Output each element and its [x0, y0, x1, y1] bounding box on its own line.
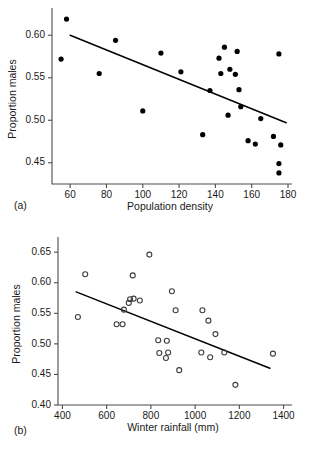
data-point	[140, 108, 145, 113]
data-point	[97, 71, 102, 76]
data-point	[276, 170, 281, 175]
data-point	[58, 56, 63, 61]
data-point	[235, 49, 240, 54]
scatter-plot-b: 0.400.450.500.550.600.654006008001000120…	[0, 225, 309, 451]
x-tick-label: 100	[134, 189, 151, 200]
panel-b: 0.400.450.500.550.600.654006008001000120…	[0, 225, 309, 451]
y-tick-label: 0.60	[26, 29, 46, 40]
data-point	[200, 308, 205, 313]
y-tick-label: 0.50	[32, 338, 52, 349]
y-tick-label: 0.50	[26, 114, 46, 125]
data-point	[200, 132, 205, 137]
y-tick-label: 0.45	[32, 368, 52, 379]
data-point	[156, 338, 161, 343]
panel-a: 0.450.500.550.606080100120140160180Popul…	[0, 0, 309, 225]
x-tick-label: 180	[280, 189, 297, 200]
x-tick-label: 1000	[184, 410, 207, 421]
data-point	[238, 104, 243, 109]
data-point	[157, 351, 162, 356]
data-point	[227, 67, 232, 72]
data-point	[213, 332, 218, 337]
y-tick-label: 0.65	[32, 246, 52, 257]
axis-spine	[58, 237, 292, 405]
data-point	[178, 69, 183, 74]
x-tick-label: 80	[101, 189, 113, 200]
data-point	[75, 314, 80, 319]
data-point	[276, 161, 281, 166]
data-point	[216, 56, 221, 61]
data-point	[225, 113, 230, 118]
x-tick-label: 60	[65, 189, 77, 200]
data-point	[113, 38, 118, 43]
x-tick-label: 1200	[228, 410, 251, 421]
data-point	[253, 141, 258, 146]
x-axis-title: Winter rainfall (mm)	[127, 421, 219, 433]
data-point	[114, 322, 119, 327]
data-point	[131, 296, 136, 301]
data-point	[166, 350, 171, 355]
x-tick-label: 140	[207, 189, 224, 200]
data-point	[158, 51, 163, 56]
data-point	[173, 308, 178, 313]
figure-container: 0.450.500.550.606080100120140160180Popul…	[0, 0, 309, 451]
data-point	[222, 45, 227, 50]
data-point	[233, 72, 238, 77]
y-tick-label: 0.55	[32, 307, 52, 318]
regression-line	[70, 35, 286, 123]
y-tick-label: 0.45	[26, 156, 46, 167]
data-point	[164, 338, 169, 343]
data-point	[271, 134, 276, 139]
data-point	[218, 71, 223, 76]
y-tick-label: 0.40	[32, 399, 52, 410]
data-point	[199, 350, 204, 355]
data-point	[236, 87, 241, 92]
data-point	[258, 116, 263, 121]
y-tick-label: 0.55	[26, 71, 46, 82]
y-tick-label: 0.60	[32, 276, 52, 287]
data-point	[245, 138, 250, 143]
data-point	[169, 289, 174, 294]
data-point	[270, 351, 275, 356]
axis-spine	[52, 8, 292, 184]
x-tick-label: 160	[243, 189, 260, 200]
x-tick-label: 120	[171, 189, 188, 200]
data-point	[276, 51, 281, 56]
data-point	[130, 273, 135, 278]
data-point	[137, 298, 142, 303]
panel-label-b: (b)	[14, 424, 27, 436]
x-tick-label: 600	[98, 410, 115, 421]
data-point	[163, 355, 168, 360]
data-point	[177, 368, 182, 373]
panel-label-a: (a)	[14, 199, 27, 211]
data-point	[208, 355, 213, 360]
regression-line	[76, 292, 270, 368]
scatter-plot-a: 0.450.500.550.606080100120140160180Popul…	[0, 0, 309, 225]
x-tick-label: 800	[143, 410, 160, 421]
x-axis-title: Population density	[127, 200, 214, 212]
data-point	[233, 382, 238, 387]
data-point	[207, 88, 212, 93]
data-point	[278, 142, 283, 147]
data-point	[147, 252, 152, 257]
x-tick-label: 400	[54, 410, 71, 421]
data-point	[83, 272, 88, 277]
y-axis-title: Proportion males	[6, 59, 18, 138]
x-tick-label: 1400	[272, 410, 295, 421]
y-axis-title: Proportion males	[10, 284, 22, 363]
data-point	[120, 322, 125, 327]
data-point	[206, 318, 211, 323]
data-point	[64, 17, 69, 22]
